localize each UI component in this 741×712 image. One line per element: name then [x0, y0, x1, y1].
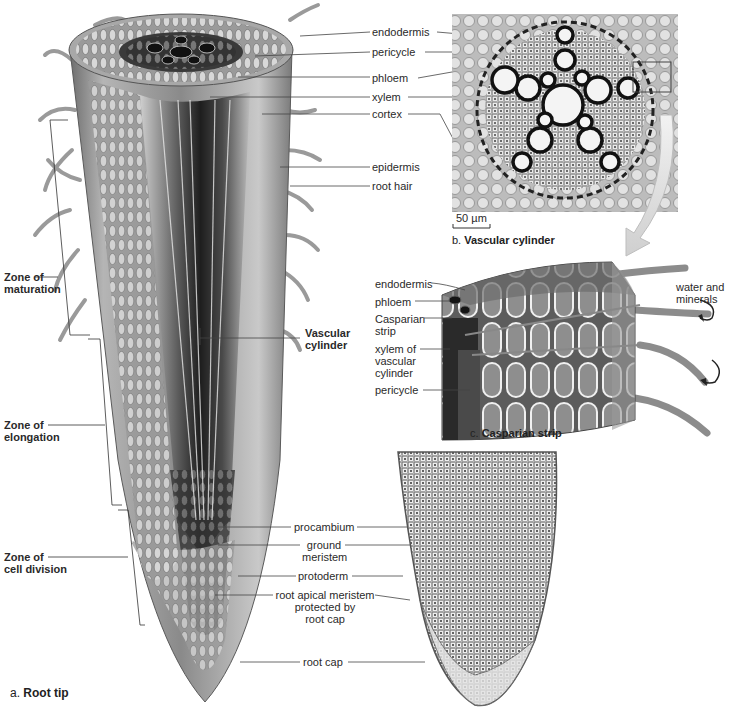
ground-meristem-line1: ground: [302, 539, 346, 551]
label-pericycle: pericycle: [372, 46, 415, 58]
ram-line1: root apical meristem: [275, 589, 375, 601]
label-epidermis: epidermis: [372, 161, 420, 173]
label-root-cap: root cap: [303, 656, 343, 668]
label-zone-elongation: Zone of elongation: [4, 419, 60, 443]
caption-b-letter: b.: [452, 234, 461, 246]
xylem-line2: vascular: [375, 355, 416, 367]
ram-line3: root cap: [275, 613, 375, 625]
scale-bar-label: 50 µm: [456, 212, 487, 224]
label-zone-maturation: Zone of maturation: [4, 271, 61, 295]
zone-maturation-line1: Zone of: [4, 271, 61, 283]
zone-division-line1: Zone of: [4, 551, 67, 563]
label-procambium: procambium: [294, 521, 355, 533]
ground-meristem-line2: meristem: [302, 551, 346, 563]
label-zone-cell-division: Zone of cell division: [4, 551, 67, 575]
zone-division-line2: cell division: [4, 563, 67, 575]
zone-maturation-line2: maturation: [4, 283, 61, 295]
caption-b-title: Vascular cylinder: [464, 234, 555, 246]
label-c-pericycle: pericycle: [375, 384, 418, 396]
caption-casparian-strip: c. Casparian strip: [470, 427, 562, 439]
label-root-hair: root hair: [372, 180, 412, 192]
label-root-apical-meristem: root apical meristem protected by root c…: [275, 589, 375, 625]
label-phloem: phloem: [372, 72, 408, 84]
xylem-line3: cylinder: [375, 367, 416, 379]
caption-a-letter: a.: [10, 686, 20, 700]
caption-c-letter: c.: [470, 427, 479, 439]
caption-root-tip: a. Root tip: [10, 686, 69, 700]
caption-c-title: Casparian strip: [482, 427, 562, 439]
water-line1: water and: [676, 281, 724, 293]
label-c-endodermis: endodermis: [375, 278, 432, 290]
label-vascular-line1: Vascular: [305, 327, 350, 339]
water-line2: minerals: [676, 293, 724, 305]
caption-a-title: Root tip: [23, 686, 68, 700]
label-water-minerals: water and minerals: [676, 281, 724, 305]
ram-line2: protected by: [275, 601, 375, 613]
label-protoderm: protoderm: [298, 570, 348, 582]
label-c-casparian: Casparian strip: [375, 313, 425, 337]
zone-elongation-line1: Zone of: [4, 419, 60, 431]
label-c-phloem: phloem: [375, 296, 411, 308]
label-cortex: cortex: [372, 108, 402, 120]
caption-vascular-cylinder: b. Vascular cylinder: [452, 234, 555, 246]
zone-elongation-line2: elongation: [4, 431, 60, 443]
casparian-line1: Casparian: [375, 313, 425, 325]
label-vascular-line2: cylinder: [305, 339, 350, 351]
label-ground-meristem: ground meristem: [302, 539, 346, 563]
label-endodermis: endodermis: [372, 26, 429, 38]
label-c-xylem: xylem of vascular cylinder: [375, 343, 416, 379]
casparian-line2: strip: [375, 325, 425, 337]
root-tip-micrograph: [398, 452, 557, 706]
label-vascular-cylinder: Vascular cylinder: [305, 327, 350, 351]
label-xylem: xylem: [372, 91, 401, 103]
xylem-line1: xylem of: [375, 343, 416, 355]
